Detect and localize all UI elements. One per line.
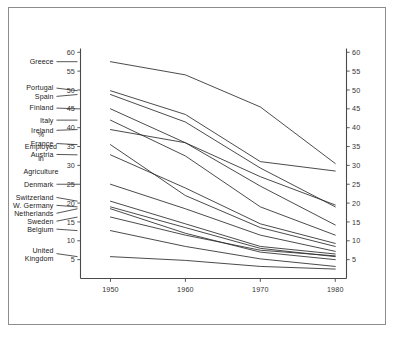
- figure-root: 5510101515202025253030353540404545505055…: [0, 0, 395, 341]
- series-label-denmark: Denmark: [24, 181, 54, 189]
- y-axis-title-line-1: %: [38, 131, 45, 139]
- series-label-spain: Spain: [35, 93, 54, 101]
- y-axis-tick-label-right: 55: [352, 67, 360, 76]
- y-axis-tick-label-right: 45: [352, 104, 360, 113]
- series-label-w-germany: W. Germany: [13, 202, 54, 210]
- y-axis-tick-label-right: 10: [352, 236, 360, 245]
- y-axis-title-line-3: in: [38, 155, 44, 163]
- series-label-italy: Italy: [40, 117, 54, 125]
- leader-line-netherlands: [57, 209, 78, 214]
- series-line-portugal: [110, 91, 335, 171]
- series-label-greece: Greece: [30, 58, 54, 66]
- y-axis-tick-label-left: 35: [67, 142, 75, 151]
- series-line-austria: [110, 155, 335, 244]
- y-axis-tick-label-right: 20: [352, 199, 360, 208]
- series-label-united-kingdom: UnitedKingdom: [25, 247, 54, 263]
- y-axis-tick-label-right: 5: [352, 255, 356, 264]
- y-axis-tick-label-left: 55: [67, 67, 75, 76]
- y-axis-tick-label-right: 30: [352, 161, 360, 170]
- y-axis-tick-label-right: 50: [352, 86, 360, 95]
- chart-series: [110, 62, 335, 269]
- y-axis-title-line-4: Agriculture: [23, 168, 58, 176]
- y-axis-tick-label-right: 60: [352, 48, 360, 57]
- y-axis-tick-label-left: 5: [71, 255, 75, 264]
- series-label-sweden: Sweden: [27, 218, 53, 226]
- x-axis-tick-label: 1980: [327, 285, 344, 294]
- y-axis-tick-label-right: 25: [352, 180, 360, 189]
- series-label-belgium: Belgium: [27, 226, 53, 234]
- y-axis-tick-label-left: 60: [67, 48, 75, 57]
- series-label-netherlands: Netherlands: [14, 210, 54, 218]
- x-axis-tick-label: 1960: [177, 285, 194, 294]
- series-line-belgium: [110, 231, 335, 267]
- y-axis-title-line-2: Employed: [25, 143, 57, 151]
- y-axis-tick-label-left: 10: [67, 236, 75, 245]
- series-line-italy: [110, 120, 335, 235]
- series-line-switzerland: [110, 201, 335, 254]
- line-chart: 5510101515202025253030353540404545505055…: [0, 0, 395, 341]
- y-axis-tick-label-right: 40: [352, 123, 360, 132]
- series-line-w-germany: [110, 207, 335, 257]
- y-axis-tick-label-left: 30: [67, 161, 75, 170]
- y-axis-tick-label-right: 15: [352, 218, 360, 227]
- series-label-portugal: Portugal: [26, 84, 54, 92]
- x-axis-tick-label: 1950: [102, 285, 119, 294]
- series-label-finland: Finland: [30, 104, 54, 112]
- leader-line-spain: [57, 95, 78, 97]
- leader-line-belgium: [57, 229, 78, 231]
- series-line-spain: [110, 95, 335, 207]
- x-axis-tick-label: 1970: [252, 285, 269, 294]
- y-axis-tick-label-left: 40: [67, 123, 75, 132]
- series-line-denmark: [110, 184, 335, 251]
- series-label-switzerland: Switzerland: [16, 194, 54, 202]
- y-axis-tick-label-right: 35: [352, 142, 360, 151]
- series-line-greece: [110, 62, 335, 164]
